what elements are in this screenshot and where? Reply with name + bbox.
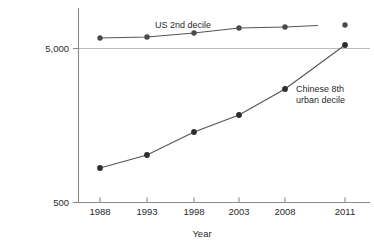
data-point-us-1998 — [191, 30, 196, 35]
y-tick-label-5000: 5,000 — [45, 43, 69, 54]
x-tick-label-2011: 2011 — [335, 206, 355, 217]
data-point-us-2011 — [342, 22, 347, 27]
series-label-china-line2: urban decile — [296, 95, 345, 105]
data-point-us-2008 — [282, 24, 287, 29]
x-tick-label-1988: 1988 — [89, 206, 110, 217]
data-point-china-1993 — [144, 152, 150, 158]
data-point-china-2011 — [342, 42, 348, 48]
data-point-china-2008 — [282, 86, 288, 92]
data-point-us-1988 — [97, 35, 102, 40]
data-point-us-2003 — [236, 25, 241, 30]
series-line-china — [100, 45, 345, 168]
x-tick-label-2008: 2008 — [274, 206, 295, 217]
data-point-us-1993 — [144, 34, 149, 39]
x-axis-title: Year — [0, 228, 374, 239]
x-axis-title-text: Year — [162, 228, 211, 239]
data-point-china-1998 — [191, 129, 197, 135]
series-label-china-line1: Chinese 8th — [296, 84, 344, 94]
x-tick-label-1998: 1998 — [183, 206, 204, 217]
data-point-china-2003 — [236, 112, 242, 118]
x-tick-label-1993: 1993 — [136, 206, 157, 217]
chart-plot-area: 5,000 500 1988 1993 1998 2003 2008 2011 … — [0, 0, 374, 249]
chart-container: 5,000 500 1988 1993 1998 2003 2008 2011 … — [0, 0, 374, 249]
data-point-china-1988 — [97, 165, 103, 171]
series-line-us-tail — [285, 26, 318, 28]
y-tick-label-500: 500 — [53, 197, 69, 208]
x-tick-label-2003: 2003 — [228, 206, 249, 217]
series-label-us: US 2nd decile — [155, 20, 211, 30]
